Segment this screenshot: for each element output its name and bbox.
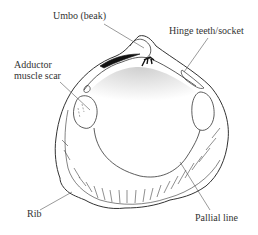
label-umbo: Umbo (beak) — [53, 10, 106, 21]
label-adductor-muscle-scar: Adductor muscle scar — [14, 59, 84, 81]
label-pallial-line: Pallial line — [195, 212, 238, 223]
label-adductor-line1: Adductor — [14, 59, 84, 70]
adductor-scar-left — [73, 96, 97, 129]
leader-rib — [40, 192, 72, 210]
label-adductor-line2: muscle scar — [14, 70, 84, 81]
label-hinge-teeth: Hinge teeth/socket — [169, 25, 244, 36]
label-rib: Rib — [27, 208, 41, 219]
leader-umbo — [104, 24, 144, 48]
leader-hinge — [184, 38, 208, 72]
